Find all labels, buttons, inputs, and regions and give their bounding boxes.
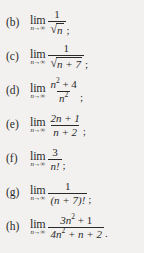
radical: √ n + 7 (50, 57, 82, 71)
lim-infinity: ∞ (40, 58, 45, 66)
punctuation: ; (87, 193, 91, 206)
expression: 1 √ n ; (48, 9, 69, 37)
denominator-exponent: 2 (65, 90, 69, 99)
radical-sign-icon: √ (50, 57, 57, 71)
fraction-denominator: n! (48, 159, 61, 172)
fraction-denominator: √ n + 7 (48, 55, 84, 71)
lim-infinity: ∞ (40, 228, 45, 236)
list-item: (b) lim n→∞ 1 √ n ; (4, 6, 142, 40)
limit-operator: lim n→∞ (30, 218, 45, 236)
lim-infinity: ∞ (40, 92, 45, 100)
item-label: (f) (4, 153, 30, 165)
punctuation: ; (84, 58, 88, 71)
lim-infinity: ∞ (40, 194, 45, 202)
item-label: (g) (4, 187, 30, 199)
fraction-numerator: 1 (63, 181, 73, 193)
list-item: (f) lim n→∞ 3 n! ; (4, 142, 142, 176)
fraction-numerator: 3 (50, 147, 60, 159)
limit-operator: lim n→∞ (30, 150, 45, 168)
list-item: (h) lim n→∞ 3n2 + 1 4n2 + n + 2 . (4, 210, 142, 244)
list-item: (c) lim n→∞ 1 √ n + 7 ; (4, 40, 142, 74)
fraction-numerator: 1 (61, 43, 71, 55)
denominator-base: 4n (50, 228, 61, 240)
expression: n2 + 4 n2 ; (48, 79, 83, 104)
fraction: n2 + 4 n2 (48, 79, 78, 104)
fraction-denominator: √ n (48, 21, 65, 37)
lim-subscript: n→∞ (30, 127, 45, 134)
lim-infinity: ∞ (40, 126, 45, 134)
list-item: (d) lim n→∞ n2 + 4 n2 ; (4, 74, 142, 108)
limit-operator: lim n→∞ (30, 116, 45, 134)
expression: 1 √ n + 7 ; (48, 43, 88, 71)
punctuation: ; (79, 91, 83, 104)
lim-subscript: n→∞ (30, 25, 45, 32)
lim-subscript: n→∞ (30, 195, 45, 202)
lim-subscript: n→∞ (30, 229, 45, 236)
item-label: (d) (4, 85, 30, 97)
expression: 2n + 1 n + 2 ; (48, 113, 86, 138)
denominator-tail: + n + 2 (65, 228, 102, 240)
lim-subscript: n→∞ (30, 59, 45, 66)
item-label: (e) (4, 119, 30, 131)
fraction: 3 n! (48, 147, 61, 172)
fraction-denominator: n + 2 (51, 125, 79, 138)
fraction: 1 √ n (48, 9, 65, 37)
fraction-denominator: (n + 7)! (48, 193, 87, 206)
expression: 3 n! ; (48, 147, 65, 172)
radical-sign-icon: √ (50, 23, 57, 37)
lim-infinity: ∞ (40, 24, 45, 32)
lim-subscript: n→∞ (30, 161, 45, 168)
limit-operator: lim n→∞ (30, 82, 45, 100)
fraction-numerator: n2 + 4 (48, 79, 78, 91)
exercise-list: (b) lim n→∞ 1 √ n ; (c) lim n→∞ (0, 0, 144, 253)
list-item: (g) lim n→∞ 1 (n + 7)! ; (4, 176, 142, 210)
numerator-base: 3n (60, 214, 71, 226)
limit-operator: lim n→∞ (30, 48, 45, 66)
limit-operator: lim n→∞ (30, 184, 45, 202)
item-label: (h) (4, 221, 30, 233)
fraction: 1 (n + 7)! (48, 181, 87, 206)
fraction: 3n2 + 1 4n2 + n + 2 (48, 215, 104, 240)
radical: √ n (50, 23, 63, 37)
item-label: (b) (4, 17, 30, 29)
fraction-denominator: 4n2 + n + 2 (48, 227, 104, 240)
radicand: n + 7 (56, 57, 82, 71)
fraction-numerator: 1 (52, 9, 62, 21)
lim-subscript: n→∞ (30, 93, 45, 100)
fraction-denominator: n2 (57, 91, 70, 104)
expression: 3n2 + 1 4n2 + n + 2 . (48, 215, 107, 240)
punctuation: ; (62, 159, 66, 172)
punctuation: ; (82, 125, 86, 138)
numerator-tail: + 1 (75, 214, 92, 226)
fraction: 1 √ n + 7 (48, 43, 84, 71)
punctuation: . (104, 227, 108, 240)
numerator-tail: + 4 (60, 78, 77, 90)
item-label: (c) (4, 51, 30, 63)
lim-infinity: ∞ (40, 160, 45, 168)
fraction-numerator: 3n2 + 1 (58, 215, 94, 227)
expression: 1 (n + 7)! ; (48, 181, 91, 206)
list-item: (e) lim n→∞ 2n + 1 n + 2 ; (4, 108, 142, 142)
fraction-numerator: 2n + 1 (48, 113, 81, 125)
punctuation: ; (66, 24, 70, 37)
limit-operator: lim n→∞ (30, 14, 45, 32)
fraction: 2n + 1 n + 2 (48, 113, 81, 138)
